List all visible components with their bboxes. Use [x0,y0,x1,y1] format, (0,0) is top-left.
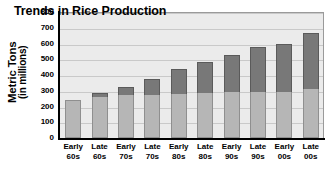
x-axis-tick-label-line1: Late [245,142,271,152]
x-axis-tick-label: Late60s [86,142,112,162]
x-axis-tick-label-line1: Late [298,142,324,152]
y-axis-tick-label: 700 [30,24,54,32]
x-axis-tick-label-line2: 60s [60,152,86,162]
y-axis-title-sub: (in millions) [19,42,30,103]
bar-segment-lower [144,95,160,138]
bar [171,69,187,138]
bar-segment-lower [197,93,213,138]
bar-segment-upper [276,44,292,93]
y-axis-tick-label: 0 [30,134,54,142]
bar [65,100,81,138]
x-axis-tick-label: Late80s [192,142,218,162]
x-axis-tick-label: Late70s [139,142,165,162]
y-axis-tick-labels: 0100200300400500600700800 [30,8,54,140]
x-axis-tick-label-line1: Early [166,142,192,152]
rice-production-bar-chart: Metric Tons (in millions) 01002003004005… [0,0,331,173]
bar-segment-lower [276,92,292,138]
x-axis-tick-labels: Early60sLate60sEarly70sLate70sEarly80sLa… [60,142,324,172]
bar [197,62,213,138]
bar-segment-lower [303,89,319,138]
bar-segment-upper [224,55,240,92]
bar-segment-lower [224,92,240,138]
x-axis-tick-label-line2: 80s [192,152,218,162]
x-axis-tick-label-line2: 00s [298,152,324,162]
x-axis-tick-label-line1: Early [113,142,139,152]
bar-segment-lower [250,92,266,138]
x-axis-tick-label-line1: Late [139,142,165,152]
bar-segment-upper [171,69,187,94]
x-axis-tick-label-line2: 80s [166,152,192,162]
y-axis-tick-label: 600 [30,40,54,48]
x-axis-tick-label-line1: Early [60,142,86,152]
bar [250,47,266,138]
bar [303,32,319,138]
x-axis-tick-label-line2: 70s [113,152,139,162]
x-axis-tick-label-line2: 60s [86,152,112,162]
y-axis-tick-label: 100 [30,118,54,126]
x-axis-tick-label-line1: Early [271,142,297,152]
x-axis-tick-label: Early70s [113,142,139,162]
bar-segment-upper [197,62,213,94]
x-axis-tick-label: Early80s [166,142,192,162]
bar-segment-upper [303,33,319,90]
bar-segment-lower [118,95,134,138]
bar [276,44,292,139]
x-axis-tick-label-line1: Early [218,142,244,152]
y-axis-tick-label: 500 [30,55,54,63]
x-axis-line [58,138,325,140]
x-axis-tick-label: Early90s [218,142,244,162]
chart-title: Trends in Rice Production [14,4,166,18]
y-axis-tick-label: 200 [30,103,54,111]
x-axis-tick-label-line2: 90s [218,152,244,162]
bar-segment-upper [118,87,134,95]
bar [224,55,240,138]
bar-segment-lower [92,97,108,138]
bar-segment-lower [171,94,187,138]
x-axis-tick-label: Late00s [298,142,324,162]
x-axis-tick-label-line2: 00s [271,152,297,162]
x-axis-tick-label-line2: 70s [139,152,165,162]
x-axis-tick-label-line1: Late [86,142,112,152]
bars-layer [60,13,323,138]
y-axis-tick-label: 400 [30,71,54,79]
bar-segment-lower [65,100,81,138]
x-axis-tick-label: Late90s [245,142,271,162]
plot-area [60,12,324,138]
x-axis-tick-label-line2: 90s [245,152,271,162]
bar-segment-upper [144,79,160,95]
x-axis-tick-label: Early60s [60,142,86,162]
x-axis-tick-label: Early00s [271,142,297,162]
bar [144,79,160,138]
bar-segment-upper [250,47,266,92]
bar [118,87,134,138]
y-axis-line [58,11,60,140]
x-axis-tick-label-line1: Late [192,142,218,152]
bar [92,93,108,138]
y-axis-tick-label: 300 [30,87,54,95]
